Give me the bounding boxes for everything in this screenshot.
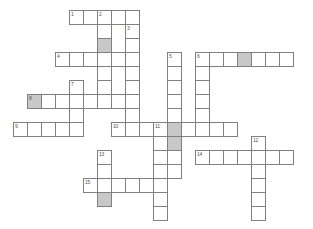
crossword-cell[interactable] (125, 108, 140, 123)
crossword-cell[interactable] (111, 178, 126, 193)
crossword-cell-numbered[interactable]: 5 (167, 52, 182, 67)
crossword-cell[interactable] (97, 192, 112, 207)
clue-number: 12 (253, 137, 258, 143)
crossword-cell[interactable] (69, 52, 84, 67)
crossword-cell[interactable] (55, 122, 70, 137)
crossword-cell[interactable] (55, 94, 70, 109)
crossword-cell[interactable] (139, 178, 154, 193)
crossword-cell[interactable] (97, 52, 112, 67)
crossword-cell[interactable] (237, 52, 252, 67)
crossword-cell[interactable] (251, 206, 266, 221)
crossword-cell[interactable] (125, 10, 140, 25)
crossword-cell[interactable] (97, 80, 112, 95)
crossword-cell[interactable] (27, 122, 42, 137)
crossword-cell[interactable] (251, 192, 266, 207)
crossword-cell[interactable] (97, 38, 112, 53)
crossword-cell-numbered[interactable]: 11 (153, 122, 168, 137)
crossword-cell[interactable] (265, 150, 280, 165)
crossword-cell[interactable] (83, 52, 98, 67)
crossword-cell-numbered[interactable]: 6 (195, 52, 210, 67)
crossword-cell[interactable] (125, 94, 140, 109)
crossword-cell[interactable] (69, 94, 84, 109)
crossword-cell-numbered[interactable]: 14 (195, 150, 210, 165)
crossword-cell[interactable] (125, 52, 140, 67)
crossword-cell-numbered[interactable]: 9 (13, 122, 28, 137)
crossword-cell-numbered[interactable]: 3 (125, 24, 140, 39)
crossword-cell[interactable] (167, 80, 182, 95)
crossword-cell[interactable] (153, 206, 168, 221)
crossword-cell[interactable] (209, 150, 224, 165)
crossword-cell[interactable] (167, 136, 182, 151)
crossword-cell-numbered[interactable]: 15 (83, 178, 98, 193)
crossword-cell[interactable] (181, 122, 196, 137)
crossword-cell[interactable] (167, 164, 182, 179)
crossword-cell[interactable] (223, 122, 238, 137)
crossword-cell[interactable] (111, 94, 126, 109)
crossword-cell-numbered[interactable]: 1 (69, 10, 84, 25)
crossword-cell[interactable] (97, 178, 112, 193)
clue-number: 11 (155, 123, 160, 129)
crossword-cell-numbered[interactable]: 2 (97, 10, 112, 25)
crossword-cell[interactable] (195, 94, 210, 109)
crossword-cell[interactable] (97, 164, 112, 179)
crossword-cell[interactable] (69, 122, 84, 137)
crossword-cell[interactable] (167, 150, 182, 165)
crossword-cell[interactable] (97, 24, 112, 39)
crossword-cell-numbered[interactable]: 13 (97, 150, 112, 165)
crossword-cell[interactable] (125, 122, 140, 137)
clue-number: 10 (113, 123, 118, 129)
crossword-cell[interactable] (167, 94, 182, 109)
crossword-cell-numbered[interactable]: 7 (69, 80, 84, 95)
clue-number: 5 (169, 53, 172, 59)
crossword-cell[interactable] (223, 52, 238, 67)
crossword-cell[interactable] (251, 150, 266, 165)
crossword-cell[interactable] (195, 122, 210, 137)
crossword-cell[interactable] (69, 108, 84, 123)
clue-number: 15 (85, 179, 90, 185)
crossword-cell[interactable] (97, 94, 112, 109)
crossword-cell[interactable] (167, 66, 182, 81)
crossword-cell-numbered[interactable]: 8 (27, 94, 42, 109)
crossword-cell[interactable] (251, 178, 266, 193)
crossword-cell[interactable] (41, 94, 56, 109)
crossword-cell[interactable] (209, 122, 224, 137)
clue-number: 8 (29, 95, 32, 101)
crossword-cell[interactable] (209, 52, 224, 67)
crossword-cell[interactable] (223, 150, 238, 165)
crossword-cell[interactable] (153, 192, 168, 207)
crossword-cell[interactable] (83, 10, 98, 25)
crossword-cell-numbered[interactable]: 10 (111, 122, 126, 137)
clue-number: 4 (57, 53, 60, 59)
crossword-cell[interactable] (111, 10, 126, 25)
crossword-cell[interactable] (251, 52, 266, 67)
crossword-cell[interactable] (153, 178, 168, 193)
crossword-cell[interactable] (265, 52, 280, 67)
crossword-cell[interactable] (195, 108, 210, 123)
crossword-cell[interactable] (125, 80, 140, 95)
crossword-cell[interactable] (97, 66, 112, 81)
crossword-cell[interactable] (279, 150, 294, 165)
clue-number: 9 (15, 123, 18, 129)
crossword-cell[interactable] (125, 178, 140, 193)
crossword-cell[interactable] (153, 150, 168, 165)
crossword-cell[interactable] (279, 52, 294, 67)
crossword-cell[interactable] (167, 108, 182, 123)
crossword-cell[interactable] (83, 94, 98, 109)
crossword-cell[interactable] (195, 66, 210, 81)
crossword-cell[interactable] (125, 38, 140, 53)
crossword-cell[interactable] (237, 150, 252, 165)
crossword-cell[interactable] (139, 122, 154, 137)
crossword-cell[interactable] (41, 122, 56, 137)
crossword-cell-numbered[interactable]: 12 (251, 136, 266, 151)
crossword-cell[interactable] (111, 52, 126, 67)
crossword-cell[interactable] (125, 66, 140, 81)
crossword-cell[interactable] (195, 80, 210, 95)
clue-number: 2 (99, 11, 102, 17)
crossword-cell[interactable] (251, 164, 266, 179)
crossword-cell-numbered[interactable]: 4 (55, 52, 70, 67)
clue-number: 14 (197, 151, 202, 157)
clue-number: 7 (71, 81, 74, 87)
crossword-cell[interactable] (167, 122, 182, 137)
crossword-cell[interactable] (153, 136, 168, 151)
crossword-cell[interactable] (153, 164, 168, 179)
